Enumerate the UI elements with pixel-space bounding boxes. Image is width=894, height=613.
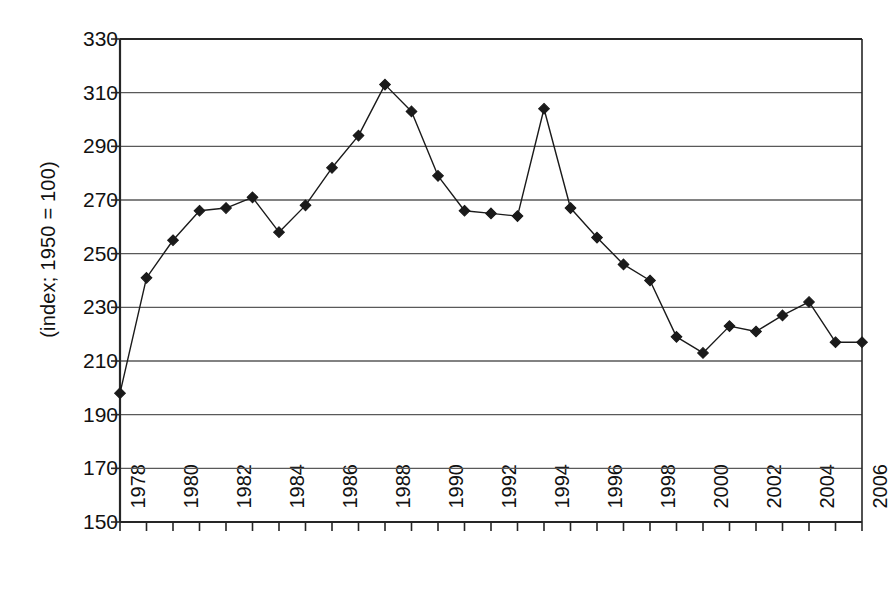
data-point-marker bbox=[115, 388, 126, 399]
grid-lines bbox=[120, 93, 862, 469]
data-point-marker bbox=[486, 208, 497, 219]
data-point-marker bbox=[645, 275, 656, 286]
data-point-marker bbox=[141, 273, 152, 284]
data-point-marker bbox=[512, 211, 523, 222]
line-chart-figure: (index; 1950 = 100) 33031029027025023021… bbox=[0, 0, 894, 613]
data-point-marker bbox=[221, 203, 232, 214]
x-axis-tick-marks bbox=[120, 522, 862, 531]
plot-area bbox=[0, 0, 894, 613]
data-point-marker bbox=[433, 171, 444, 182]
data-point-marker bbox=[459, 205, 470, 216]
data-point-marker bbox=[830, 337, 841, 348]
data-series-markers bbox=[115, 79, 868, 398]
data-point-marker bbox=[804, 297, 815, 308]
y-axis-tick-marks bbox=[111, 39, 120, 522]
data-point-marker bbox=[539, 103, 550, 114]
data-point-marker bbox=[247, 192, 258, 203]
series-polyline bbox=[120, 85, 862, 394]
data-point-marker bbox=[751, 326, 762, 337]
data-point-marker bbox=[671, 332, 682, 343]
axis-frame bbox=[120, 39, 862, 522]
data-series-line bbox=[120, 85, 862, 394]
data-point-marker bbox=[857, 337, 868, 348]
data-point-marker bbox=[777, 310, 788, 321]
